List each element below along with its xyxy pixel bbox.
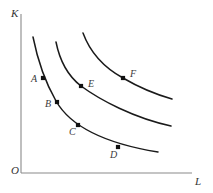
point-label-e: E [88,79,94,89]
axes-group [21,14,192,173]
data-point-marker-b [55,100,59,104]
point-label-d: D [110,150,117,160]
data-point-marker-a [41,76,45,80]
origin-label: O [11,165,19,176]
data-point-markers-group [41,76,125,149]
point-label-f: F [130,69,136,79]
data-point-marker-c [76,123,80,127]
isoquant-curves-group [33,33,172,152]
point-label-b: B [45,99,51,109]
data-point-marker-e [79,84,83,88]
isoquant-3 [83,33,172,99]
data-point-marker-f [121,76,125,80]
y-axis-label: K [11,8,18,19]
isoquant-2 [56,42,171,126]
point-label-a: A [31,74,37,84]
plot-canvas [0,0,213,193]
point-label-c: C [69,127,76,137]
isoquant-diagram: K L O ABCDEF [0,0,213,193]
x-axis-label: L [195,176,201,187]
